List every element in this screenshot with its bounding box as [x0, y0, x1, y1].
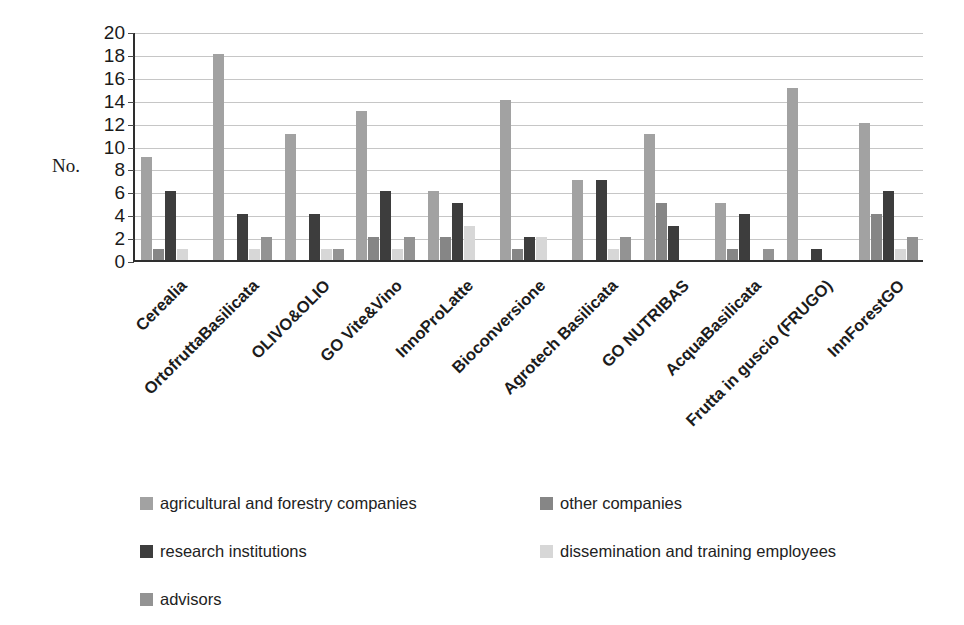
bar-AcquaBasilicata-agricultural and forestry companies — [715, 203, 726, 260]
gridline-y-18 — [135, 56, 923, 57]
bar-GO Vite&Vino-advisors — [404, 237, 415, 260]
y-tick-label-10: 10 — [89, 138, 125, 157]
gridline-y-16 — [135, 79, 923, 80]
y-tick-mark-12 — [128, 125, 134, 126]
bar-Agrotech Basilicata-advisors — [620, 237, 631, 260]
y-tick-label-0: 0 — [89, 252, 125, 271]
bar-InnoProLatte-dissemination and training employees — [464, 226, 475, 260]
bar-InnForestGO-agricultural and forestry companies — [859, 123, 870, 260]
bar-InnForestGO-research institutions — [883, 191, 894, 260]
y-tick-mark-14 — [128, 102, 134, 103]
bar-Agrotech Basilicata-dissemination and training employees — [608, 249, 619, 260]
y-tick-label-8: 8 — [89, 160, 125, 179]
legend-label: research institutions — [160, 542, 307, 561]
bar-InnoProLatte-research institutions — [452, 203, 463, 260]
bar-AcquaBasilicata-advisors — [763, 249, 774, 260]
gridline-y-12 — [135, 125, 923, 126]
bar-GO Vite&Vino-other companies — [368, 237, 379, 260]
y-tick-mark-20 — [128, 33, 134, 34]
bar-Bioconversione-other companies — [512, 249, 523, 260]
bar-GO Vite&Vino-research institutions — [380, 191, 391, 260]
bar-InnoProLatte-agricultural and forestry companies — [428, 191, 439, 260]
bar-OLIVO&OLIO-advisors — [333, 249, 344, 260]
bar-OrtofruttaBasilicata-agricultural and forestry companies — [213, 54, 224, 260]
legend-swatch-icon — [140, 545, 153, 558]
legend-item-research institutions: research institutions — [140, 542, 307, 561]
gridline-y-8 — [135, 170, 923, 171]
y-tick-label-20: 20 — [89, 23, 125, 42]
bar-Agrotech Basilicata-agricultural and forestry companies — [572, 180, 583, 260]
legend-swatch-icon — [140, 497, 153, 510]
bar-GO NUTRIBAS-agricultural and forestry companies — [644, 134, 655, 260]
y-tick-label-18: 18 — [89, 46, 125, 65]
y-tick-label-12: 12 — [89, 115, 125, 134]
bar-Frutta in guscio (FRUGO)-agricultural and forestry companies — [787, 88, 798, 260]
y-tick-label-16: 16 — [89, 69, 125, 88]
bar-GO Vite&Vino-agricultural and forestry companies — [356, 111, 367, 260]
gridline-y-10 — [135, 148, 923, 149]
bar-Agrotech Basilicata-research institutions — [596, 180, 607, 260]
legend-item-dissemination and training employees: dissemination and training employees — [540, 542, 836, 561]
bar-OrtofruttaBasilicata-research institutions — [237, 214, 248, 260]
bar-Cerealia-dissemination and training employees — [177, 249, 188, 260]
gridline-y-14 — [135, 102, 923, 103]
bar-InnoProLatte-other companies — [440, 237, 451, 260]
bar-Bioconversione-dissemination and training employees — [536, 237, 547, 260]
legend-swatch-icon — [540, 545, 553, 558]
x-label-Frutta in guscio (FRUGO): Frutta in guscio (FRUGO) — [683, 276, 837, 430]
y-tick-label-4: 4 — [89, 206, 125, 225]
bar-InnForestGO-advisors — [907, 237, 918, 260]
y-tick-mark-10 — [128, 148, 134, 149]
legend-label: advisors — [160, 590, 221, 609]
bar-Frutta in guscio (FRUGO)-research institutions — [811, 249, 822, 260]
bar-OrtofruttaBasilicata-dissemination and training employees — [249, 249, 260, 260]
legend-swatch-icon — [140, 593, 153, 606]
y-tick-mark-16 — [128, 79, 134, 80]
gridline-y-20 — [135, 33, 923, 34]
y-tick-mark-6 — [128, 193, 134, 194]
y-tick-mark-4 — [128, 216, 134, 217]
bar-Bioconversione-research institutions — [524, 237, 535, 260]
legend-label: agricultural and forestry companies — [160, 494, 417, 513]
x-label-Cerealia: Cerealia — [132, 276, 191, 335]
legend-item-advisors: advisors — [140, 590, 221, 609]
legend-label: other companies — [560, 494, 682, 513]
gridline-y-4 — [135, 216, 923, 217]
bar-Cerealia-other companies — [153, 249, 164, 260]
bar-chart-figure: No. 02468101214161820 CerealiaOrtofrutta… — [0, 0, 964, 625]
bar-GO Vite&Vino-dissemination and training employees — [392, 249, 403, 260]
bar-OLIVO&OLIO-agricultural and forestry companies — [285, 134, 296, 260]
bar-OrtofruttaBasilicata-advisors — [261, 237, 272, 260]
gridline-y-6 — [135, 193, 923, 194]
bar-GO NUTRIBAS-research institutions — [668, 226, 679, 260]
legend-swatch-icon — [540, 497, 553, 510]
bar-AcquaBasilicata-research institutions — [739, 214, 750, 260]
bar-OLIVO&OLIO-dissemination and training employees — [321, 249, 332, 260]
bar-InnForestGO-other companies — [871, 214, 882, 260]
bar-AcquaBasilicata-other companies — [727, 249, 738, 260]
y-tick-mark-0 — [128, 262, 134, 263]
bar-Cerealia-research institutions — [165, 191, 176, 260]
y-tick-label-2: 2 — [89, 229, 125, 248]
legend-item-agricultural and forestry companies: agricultural and forestry companies — [140, 494, 417, 513]
bar-Bioconversione-agricultural and forestry companies — [500, 100, 511, 260]
y-tick-mark-18 — [128, 56, 134, 57]
y-tick-mark-2 — [128, 239, 134, 240]
legend-label: dissemination and training employees — [560, 542, 836, 561]
plot-area — [133, 33, 923, 262]
y-tick-label-14: 14 — [89, 92, 125, 111]
bar-OLIVO&OLIO-research institutions — [309, 214, 320, 260]
y-axis-title: No. — [52, 155, 80, 177]
y-tick-label-6: 6 — [89, 183, 125, 202]
bar-Cerealia-agricultural and forestry companies — [141, 157, 152, 260]
bar-GO NUTRIBAS-other companies — [656, 203, 667, 260]
legend-item-other companies: other companies — [540, 494, 682, 513]
bar-InnForestGO-dissemination and training employees — [895, 249, 906, 260]
y-tick-mark-8 — [128, 170, 134, 171]
